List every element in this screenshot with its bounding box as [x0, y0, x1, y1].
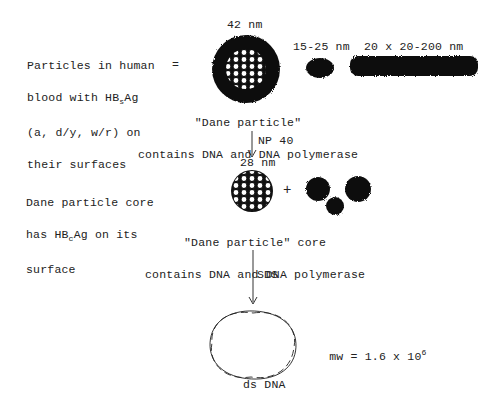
spherical-size: 15-25 nm [293, 42, 350, 53]
hbsag-fragments-icon [306, 176, 371, 215]
sds-label: SDS [257, 270, 278, 281]
filamentous-particle-icon [350, 56, 478, 76]
top-left-label: Particles in human blood with HBsAg (a, … [27, 40, 155, 181]
label-line: their surfaces [27, 160, 155, 171]
label-line: Particles in human [27, 61, 155, 72]
molecular-weight: mw = 1.6 x 106 [315, 337, 427, 362]
core-label: Dane particle core has HBcAg on its surf… [26, 177, 154, 286]
label-line: (a, d/y, w/r) on [27, 128, 155, 139]
dane-core-icon [231, 170, 273, 212]
mw-exponent: 6 [422, 348, 427, 357]
caption-line: "Dane particle" [138, 118, 358, 129]
circular-dsdna-icon [208, 309, 297, 381]
dane-particle-size: 42 nm [227, 20, 263, 31]
label-line: blood with HBsAg [27, 93, 155, 108]
dane-particle-icon [212, 35, 280, 103]
label-line: Dane particle core [26, 198, 154, 209]
equals-sign: = [172, 60, 179, 71]
label-line: has HBcAg on its [26, 230, 154, 245]
core-size: 28 nm [240, 158, 276, 169]
filament-size: 20 x 20-200 nm [364, 42, 463, 53]
core-caption: "Dane particle" core contains DNA and DN… [145, 217, 365, 291]
label-line: surface [26, 265, 154, 276]
caption-line: "Dane particle" core [145, 238, 365, 249]
mw-text: mw = 1.6 x 10 [329, 350, 421, 363]
np40-label: NP 40 [258, 136, 294, 147]
caption-line: contains DNA and DNA polymerase [145, 270, 365, 281]
spherical-particle-icon [306, 58, 334, 78]
dna-caption: ds DNA [243, 380, 286, 391]
plus-sign: + [283, 185, 292, 196]
